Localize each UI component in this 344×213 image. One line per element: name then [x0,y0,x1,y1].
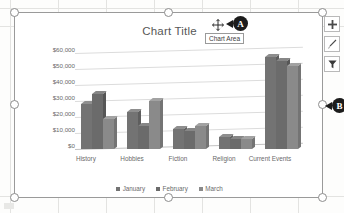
y-tick-label: $50,000 [53,61,75,68]
plus-icon [328,20,337,29]
legend-marker-icon [156,187,160,191]
chart-elements-button[interactable] [324,16,340,32]
scan-artifact [4,203,14,209]
y-tick-label: $0 [68,142,75,149]
y-tick-label: $20,000 [53,109,75,116]
chart-quick-tools[interactable] [324,16,340,72]
callout-badge-label: B [332,98,344,113]
callout-b: B [325,98,344,113]
x-category-label: Current Events [241,155,299,163]
callout-tail-icon [226,20,233,28]
resize-handle-top-center[interactable] [164,8,173,17]
legend-marker-icon [116,187,120,191]
resize-handle-bottom-left[interactable] [10,193,19,202]
resize-handle-bottom-right[interactable] [318,193,327,202]
chart-filters-button[interactable] [324,56,340,72]
chart-legend[interactable]: January February March [15,185,324,192]
chart-object[interactable]: Chart Title $0 $10,000 $20,000 $30,000 $… [14,12,323,198]
legend-item-february[interactable]: February [156,185,188,192]
resize-handle-top-right[interactable] [318,8,327,17]
chart-series-bars[interactable] [75,49,303,149]
legend-marker-icon [199,187,203,191]
resize-handle-middle-left[interactable] [10,100,19,109]
legend-label: March [205,185,223,192]
y-tick-label: $40,000 [53,77,75,84]
y-tick-label: $10,000 [53,125,75,132]
chart-title[interactable]: Chart Title [15,25,324,37]
legend-label: January [123,185,145,192]
legend-item-january[interactable]: January [116,185,145,192]
y-tick-label: $60,000 [53,46,75,53]
legend-label: February [163,185,188,192]
y-axis[interactable]: $0 $10,000 $20,000 $30,000 $40,000 $50,0… [29,49,75,145]
funnel-icon [328,60,337,69]
callout-tail-icon [325,102,332,110]
move-cursor-icon [212,19,224,31]
resize-handle-top-left[interactable] [10,8,19,17]
chart-plot-region: Chart Title $0 $10,000 $20,000 $30,000 $… [15,13,324,199]
chart-styles-button[interactable] [324,36,340,52]
y-tick-label: $30,000 [53,94,75,101]
callout-badge-label: A [233,16,248,31]
callout-a: A [226,16,248,31]
legend-item-march[interactable]: March [199,185,223,192]
resize-handle-bottom-center[interactable] [164,193,173,202]
paintbrush-icon [327,39,337,49]
chart-area-tooltip: Chart Area [205,33,244,44]
